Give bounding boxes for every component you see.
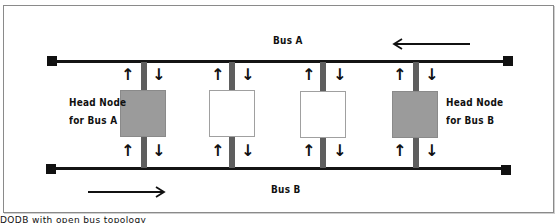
node-4-read-up-arrow-icon-b: ↑ xyxy=(393,143,406,159)
node-3-write-down-arrow-icon: ↓ xyxy=(333,67,346,83)
node-3-read-up-arrow-icon: ↑ xyxy=(302,67,315,83)
bus-b-label: Bus B xyxy=(271,182,301,196)
station-node-3 xyxy=(300,91,346,138)
node-4-tap-top xyxy=(413,62,419,92)
node-3-tap-bottom xyxy=(320,137,326,168)
node-4-read-up-arrow-icon: ↑ xyxy=(393,67,406,83)
arrow-left-icon xyxy=(392,38,472,50)
head-node-bus-b xyxy=(392,91,438,138)
node-1-tap-top xyxy=(141,62,147,91)
head-node-bus-a-label: Head Node for Bus A xyxy=(69,95,126,127)
node-2-tap-top xyxy=(229,62,235,91)
node-1-tap-bottom xyxy=(141,136,147,168)
bus-b-line xyxy=(52,167,507,170)
node-1-read-up-arrow-icon: ↑ xyxy=(121,67,134,83)
bus-a-line xyxy=(52,60,508,63)
head-node-bus-b-label: Head Node for Bus B xyxy=(446,95,503,127)
bus-a-label: Bus A xyxy=(273,33,303,47)
node-1-write-down-arrow-icon-b: ↓ xyxy=(152,143,165,159)
node-2-write-down-arrow-icon-b: ↓ xyxy=(241,143,254,159)
node-3-tap-top xyxy=(320,62,326,92)
figure-caption: DQDB with open bus topology xyxy=(0,215,146,223)
node-1-write-down-arrow-icon: ↓ xyxy=(152,67,165,83)
bus-b-right-terminator xyxy=(501,165,511,175)
head-node-bus-a xyxy=(120,90,166,137)
node-2-read-up-arrow-icon-b: ↑ xyxy=(211,143,224,159)
node-2-write-down-arrow-icon: ↓ xyxy=(241,67,254,83)
node-1-read-up-arrow-icon-b: ↑ xyxy=(121,143,134,159)
node-2-read-up-arrow-icon: ↑ xyxy=(211,67,224,83)
node-3-write-down-arrow-icon-b: ↓ xyxy=(333,143,346,159)
bus-a-right-terminator xyxy=(503,56,513,66)
node-3-read-up-arrow-icon-b: ↑ xyxy=(302,143,315,159)
arrow-right-icon xyxy=(86,186,166,198)
node-4-tap-bottom xyxy=(413,137,419,168)
station-node-2 xyxy=(209,90,255,137)
node-4-write-down-arrow-icon-b: ↓ xyxy=(425,143,438,159)
node-4-write-down-arrow-icon: ↓ xyxy=(425,67,438,83)
node-2-tap-bottom xyxy=(229,136,235,168)
